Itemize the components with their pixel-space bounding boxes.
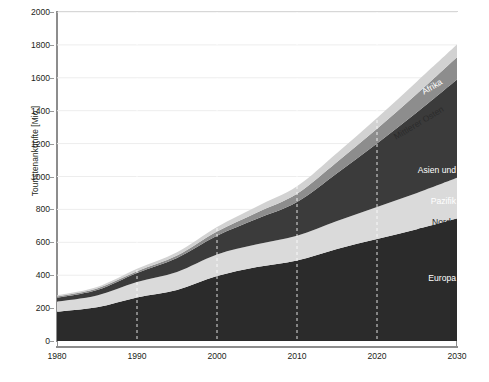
- series-label-amerika-line2: Lateinamerika: [378, 248, 456, 258]
- plot-area: [57, 12, 457, 341]
- series-label-nord-lateinamerika: Nord-, Lateinamerika: [378, 196, 456, 279]
- x-axis-line: [56, 346, 458, 348]
- series-label-asien-line1: Asien und: [398, 165, 456, 175]
- x-tick-2030: 2030: [447, 351, 466, 361]
- x-tick-2000: 2000: [207, 351, 226, 361]
- x-tick-2020: 2020: [367, 351, 386, 361]
- x-tick-2010: 2010: [287, 351, 306, 361]
- series-label-europa: Europa: [398, 273, 456, 283]
- x-tick-1990: 1990: [127, 351, 146, 361]
- x-tick-1980: 1980: [47, 351, 66, 361]
- stacked-area-svg: [57, 12, 457, 341]
- series-label-amerika-line1: Nord-,: [378, 217, 456, 227]
- chart-root: Touristenankünfte [Mio.] 200018001600140…: [0, 0, 489, 382]
